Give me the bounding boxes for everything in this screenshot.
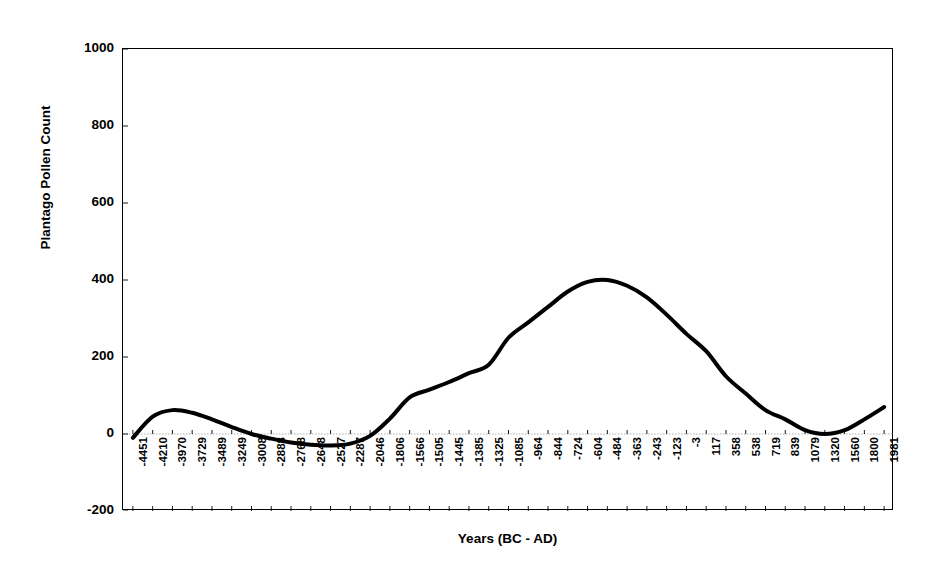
x-tick-label: 719	[770, 437, 783, 501]
y-tick-label: 200	[56, 349, 114, 363]
x-tick-label: -1325	[493, 437, 506, 501]
y-tick-label: 800	[56, 118, 114, 132]
y-axis-title: Plantago Pollen Count	[38, 63, 53, 293]
x-tick-label: -484	[611, 437, 624, 501]
x-tick-label: 1981	[888, 437, 901, 501]
x-tick-label: -363	[631, 437, 644, 501]
x-tick-label: 1320	[829, 437, 842, 501]
x-tick-label: -4210	[157, 437, 170, 501]
y-axis-tick-labels: 10008006004002000-200	[52, 0, 114, 567]
y-tick-label: 1000	[56, 41, 114, 55]
x-axis-title: Years (BC - AD)	[122, 531, 893, 546]
x-tick-label: -604	[592, 437, 605, 501]
x-tick-label: 358	[730, 437, 743, 501]
x-tick-label: -1385	[473, 437, 486, 501]
x-tick-label: -2527	[335, 437, 348, 501]
x-tick-label: -4451	[137, 437, 150, 501]
x-tick-label: -1806	[394, 437, 407, 501]
x-tick-label: -2648	[315, 437, 328, 501]
x-tick-label: -2046	[374, 437, 387, 501]
x-tick-label: -1505	[433, 437, 446, 501]
x-tick-label: -243	[651, 437, 664, 501]
x-tick-label: 117	[710, 437, 723, 501]
x-tick-label: -3729	[196, 437, 209, 501]
x-tick-label: -3	[690, 437, 703, 501]
y-tick-label: 600	[56, 195, 114, 209]
y-tick-label: 400	[56, 272, 114, 286]
x-tick-label: -2287	[354, 437, 367, 501]
x-tick-label: -2768	[295, 437, 308, 501]
series-line-plantago	[133, 280, 884, 446]
x-tick-label: -3249	[236, 437, 249, 501]
y-tick-label: -200	[56, 503, 114, 517]
x-tick-label: -1445	[453, 437, 466, 501]
x-tick-label: -3489	[216, 437, 229, 501]
x-tick-label: -964	[532, 437, 545, 501]
x-tick-label: -844	[552, 437, 565, 501]
chart-container: Plantago Pollen Count 10008006004002000-…	[0, 0, 937, 567]
x-tick-label: -1085	[513, 437, 526, 501]
x-tick-label: -123	[671, 437, 684, 501]
y-tick-label: 0	[56, 426, 114, 440]
x-tick-label: 1560	[849, 437, 862, 501]
x-tick-label: 1079	[809, 437, 822, 501]
x-tick-label: -2888	[275, 437, 288, 501]
x-tick-label: 1800	[868, 437, 881, 501]
x-tick-label: -1566	[414, 437, 427, 501]
x-tick-label: 839	[789, 437, 802, 501]
x-tick-label: -724	[572, 437, 585, 501]
x-tick-label: 538	[750, 437, 763, 501]
x-tick-label: -3008	[256, 437, 269, 501]
x-axis-tick-labels: -4451-4210-3970-3729-3489-3249-3008-2888…	[122, 437, 893, 507]
x-tick-label: -3970	[176, 437, 189, 501]
